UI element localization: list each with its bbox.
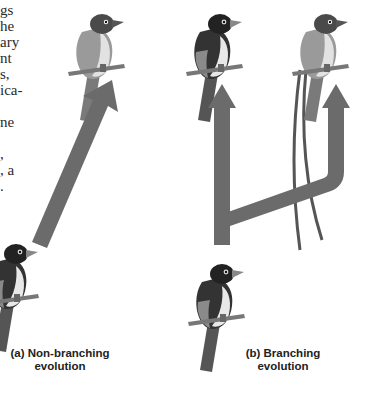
panel-b-branching (186, 14, 350, 372)
caption-b-line1: (b) Branching (228, 347, 338, 360)
evolution-diagram (0, 0, 374, 399)
panel-a-non-branching (0, 14, 125, 352)
caption-b: (b) Branching evolution (228, 347, 338, 373)
ancestor-bird-a (0, 244, 39, 352)
caption-a: (a) Non-branching evolution (0, 347, 120, 373)
caption-b-line2: evolution (228, 360, 338, 373)
diagonal-arrow-a (32, 80, 118, 248)
caption-a-line1: (a) Non-branching (0, 347, 120, 360)
branch-arrow-b-right (228, 84, 350, 226)
caption-a-line2: evolution (0, 360, 120, 373)
